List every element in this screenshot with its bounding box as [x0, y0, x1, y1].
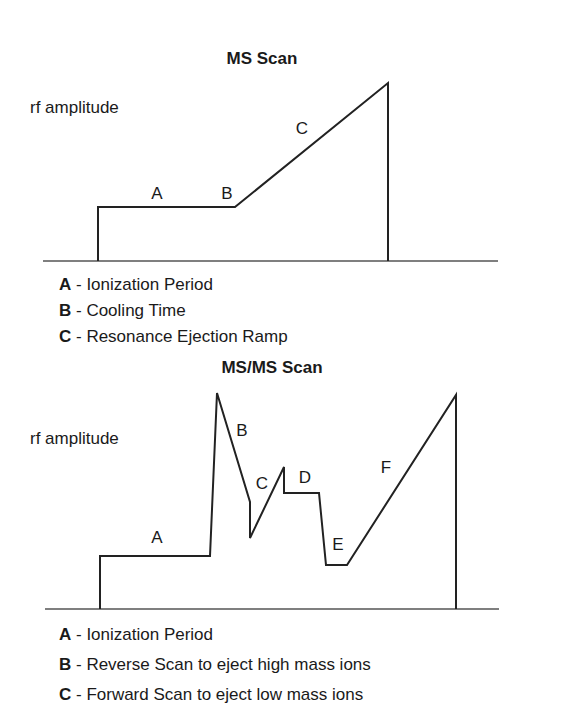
ms-scan-rf-trace: [98, 83, 388, 261]
ms-scan-title: MS Scan: [227, 49, 298, 68]
legend-item: A - Ionization Period: [59, 620, 371, 650]
msms-scan-segment-label-e: E: [332, 535, 343, 554]
ms-scan-segment-label-a: A: [151, 184, 163, 203]
legend-item: A - Ionization Period: [59, 272, 288, 298]
legend-item: B - Reverse Scan to eject high mass ions: [59, 650, 371, 680]
ms-scan-legend: A - Ionization Period B - Cooling Time C…: [59, 272, 288, 350]
ms-scan-segment-label-c: C: [296, 119, 308, 138]
msms-scan-rf-trace: [100, 393, 456, 609]
msms-scan-diagram: MS/MS Scan rf amplitude A B C D E F: [30, 358, 499, 609]
msms-scan-segment-label-a: A: [151, 528, 163, 547]
ms-scan-y-axis-label: rf amplitude: [30, 98, 119, 117]
msms-scan-segment-label-c: C: [256, 474, 268, 493]
legend-item: C - Forward Scan to eject low mass ions: [59, 680, 371, 707]
legend-item: C - Resonance Ejection Ramp: [59, 324, 288, 350]
msms-scan-legend: A - Ionization Period B - Reverse Scan t…: [59, 620, 371, 707]
msms-scan-segment-label-d: D: [299, 468, 311, 487]
ms-scan-diagram: MS Scan rf amplitude A B C: [30, 49, 498, 261]
msms-scan-title: MS/MS Scan: [221, 358, 322, 377]
msms-scan-segment-label-f: F: [381, 458, 391, 477]
msms-scan-y-axis-label: rf amplitude: [30, 429, 119, 448]
legend-item: B - Cooling Time: [59, 298, 288, 324]
ms-scan-segment-label-b: B: [221, 184, 232, 203]
msms-scan-segment-label-b: B: [236, 421, 247, 440]
